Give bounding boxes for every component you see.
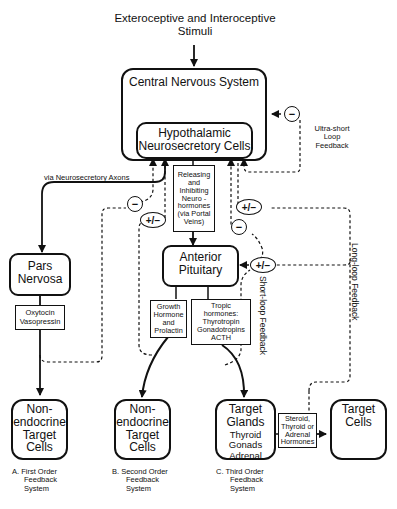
cns-label: Central Nervous System: [121, 76, 267, 89]
nonendocrine-a-line2: endocrine: [11, 416, 68, 429]
short-loop-minus-sign: −: [231, 219, 247, 235]
caption-c-line3: System: [216, 485, 264, 493]
nonendocrine-b-line2: endocrine: [114, 416, 171, 429]
hypothalamic-label: Hypothalamic Neurosecretory Cells: [136, 127, 253, 153]
nonendocrine-b-line1: Non-: [114, 403, 171, 416]
via-axons-label: via Neurosecretory Axons: [44, 174, 129, 182]
caption-b-line3: System: [112, 485, 168, 493]
second-order-plus-minus-sign: +/−: [140, 212, 166, 228]
target-glands-line2: Glands: [215, 416, 276, 429]
caption-a-line3: System: [12, 485, 57, 493]
anterior-pituitary-label: Anterior Pituitary: [162, 251, 239, 277]
nonendocrine-b-line4: Cells: [114, 441, 171, 454]
target-cells-label: Target Cells: [330, 403, 387, 429]
target-glands-adrenal: Adrenal: [215, 451, 276, 461]
nonendocrine-a-label: Non- endocrine Target Cells: [11, 403, 68, 454]
anterior-pituitary-line2: Pituitary: [162, 264, 239, 277]
tropic-line5: ACTH: [197, 334, 245, 342]
target-glands-label: Target Glands: [215, 403, 276, 429]
steroid-hormones-box: Steroid, Thyroid or Adrenal Hormones: [278, 413, 317, 448]
anterior-pituitary-plus-minus-sign: +/−: [250, 257, 276, 273]
ultra-short-line3: Feedback: [302, 142, 362, 150]
target-glands-sublabel: Thyroid Gonads Adrenal: [215, 430, 276, 461]
short-loop-label: Short-loop Feedback: [258, 276, 268, 355]
stimuli-title-line2: Stimuli: [60, 25, 330, 38]
steroid-line4: Hormones: [281, 438, 315, 446]
hypothalamic-line2: Neurosecretory Cells: [136, 140, 253, 153]
pars-nervosa-line2: Nervosa: [9, 273, 71, 286]
long-loop-label: Long-loop Feedback: [350, 243, 360, 321]
ultra-short-minus-sign: −: [284, 106, 300, 122]
releasing-line7: Veins): [178, 218, 211, 226]
caption-b: B. Second Order Feedback System: [112, 468, 168, 493]
oxytocin-box: Oxytocin Vasopressin: [15, 305, 65, 330]
nonendocrine-a-line1: Non-: [11, 403, 68, 416]
target-cells-line2: Cells: [330, 416, 387, 429]
caption-c: C. Third Order Feedback System: [216, 468, 264, 493]
nonendocrine-b-label: Non- endocrine Target Cells: [114, 403, 171, 454]
caption-a: A. First Order Feedback System: [12, 468, 57, 493]
tropic-hormones-box: Tropic hormones: Thyrotropin Gonadotropi…: [191, 299, 251, 345]
nonendocrine-a-line4: Cells: [11, 441, 68, 454]
oxytocin-line2: Vasopressin: [20, 318, 61, 326]
ultra-short-label: Ultra-short Loop Feedback: [302, 125, 362, 150]
stimuli-title: Exteroceptive and Interoceptive Stimuli: [60, 12, 330, 37]
releasing-hormones-box: Releasing and Inhibiting Neuro - hormone…: [173, 165, 215, 232]
growth-line4: Prolactin: [153, 327, 183, 335]
growth-hormone-box: Growth Hormone and Prolactin: [150, 300, 187, 338]
pars-nervosa-label: Pars Nervosa: [9, 260, 71, 286]
first-order-minus-sign: −: [127, 196, 143, 212]
stimuli-title-line1: Exteroceptive and Interoceptive: [60, 12, 330, 25]
long-loop-plus-minus-sign: +/−: [236, 199, 262, 215]
